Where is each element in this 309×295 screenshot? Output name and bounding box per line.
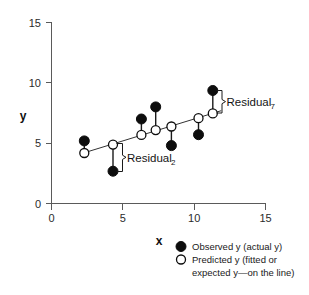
observed-point-5 <box>166 141 176 151</box>
y-axis-title: y <box>20 109 27 123</box>
legend-observed-marker-icon <box>176 242 186 252</box>
residual-2-label: Residual <box>127 152 172 164</box>
residual-scatter-figure: 15 10 5 0 0 5 10 15 y x <box>0 0 309 295</box>
y-tick-labels: 15 10 5 0 <box>29 17 41 210</box>
predicted-point-5 <box>167 122 176 131</box>
y-tick-label-0: 0 <box>35 198 41 210</box>
predicted-point-6 <box>194 114 203 123</box>
residual-7-label: Residual <box>227 96 272 108</box>
predicted-point-4 <box>151 126 160 135</box>
legend-observed-label: Observed y (actual y) <box>192 241 282 252</box>
legend: Observed y (actual y) Predicted y (fitte… <box>176 241 294 278</box>
legend-predicted-label-line2: expected y—on the line) <box>192 267 294 278</box>
x-tick-label-15: 15 <box>259 212 271 224</box>
x-tick-label-5: 5 <box>120 212 126 224</box>
residual-7-bracket <box>217 91 226 114</box>
observed-point-1 <box>79 136 89 146</box>
observed-point-4 <box>151 102 161 112</box>
residual-7-subscript: 7 <box>271 102 276 111</box>
predicted-point-1 <box>80 149 89 158</box>
predicted-point-2 <box>109 140 118 149</box>
y-tick-label-10: 10 <box>29 77 41 89</box>
legend-predicted-label-line1: Predicted y (fitted or <box>192 254 277 265</box>
y-tick-label-15: 15 <box>29 17 41 29</box>
residual-7-annotation: Residual 7 <box>217 91 276 114</box>
legend-predicted-marker-icon <box>177 255 186 264</box>
scatter-plot-canvas: 15 10 5 0 0 5 10 15 y x <box>0 0 309 295</box>
x-axis-title: x <box>156 234 163 248</box>
predicted-point-7 <box>208 109 217 118</box>
residual-2-subscript: 2 <box>171 158 176 167</box>
x-tick-labels: 0 5 10 15 <box>48 212 271 224</box>
observed-point-6 <box>194 130 204 140</box>
residual-2-bracket <box>117 144 127 172</box>
observed-point-3 <box>136 114 146 124</box>
observed-point-7 <box>208 86 218 96</box>
y-tick-label-5: 5 <box>35 137 41 149</box>
predicted-point-3 <box>137 130 146 139</box>
x-tick-label-0: 0 <box>48 212 54 224</box>
x-tick-label-10: 10 <box>188 212 200 224</box>
